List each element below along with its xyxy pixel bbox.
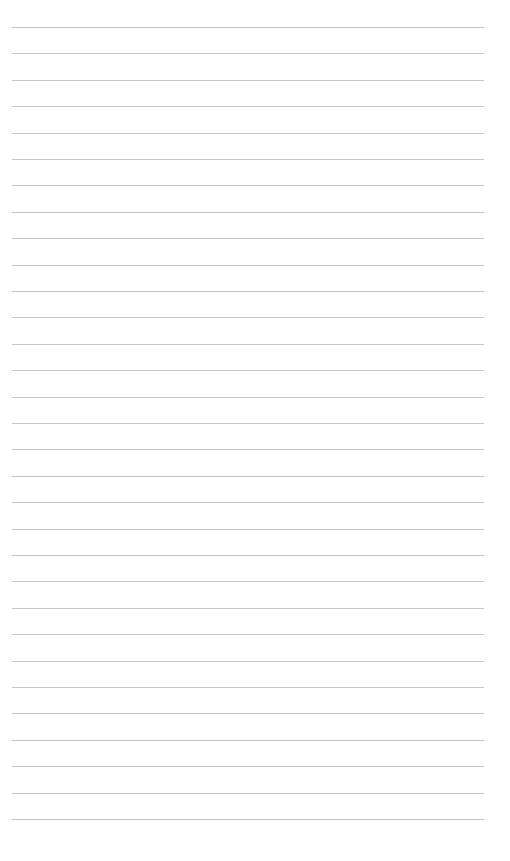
ruled-line	[12, 159, 484, 160]
ruled-line	[12, 713, 484, 714]
ruled-line	[12, 106, 484, 107]
ruled-line	[12, 317, 484, 318]
ruled-line	[12, 344, 484, 345]
ruled-line	[12, 766, 484, 767]
ruled-line	[12, 529, 484, 530]
ruled-line	[12, 502, 484, 503]
ruled-line	[12, 793, 484, 794]
ruled-line	[12, 185, 484, 186]
ruled-line	[12, 687, 484, 688]
ruled-line	[12, 581, 484, 582]
ruled-line	[12, 634, 484, 635]
ruled-line	[12, 291, 484, 292]
ruled-line	[12, 608, 484, 609]
ruled-line	[12, 449, 484, 450]
ruled-line	[12, 555, 484, 556]
ruled-line	[12, 133, 484, 134]
ruled-line	[12, 265, 484, 266]
ruled-line	[12, 27, 484, 28]
ruled-line	[12, 661, 484, 662]
ruled-line	[12, 370, 484, 371]
ruled-line	[12, 53, 484, 54]
ruled-line	[12, 80, 484, 81]
ruled-line	[12, 476, 484, 477]
ruled-line	[12, 397, 484, 398]
ruled-line	[12, 423, 484, 424]
lined-paper-page	[0, 0, 510, 861]
ruled-line	[12, 238, 484, 239]
ruled-line	[12, 819, 484, 820]
ruled-line	[12, 740, 484, 741]
ruled-line	[12, 212, 484, 213]
